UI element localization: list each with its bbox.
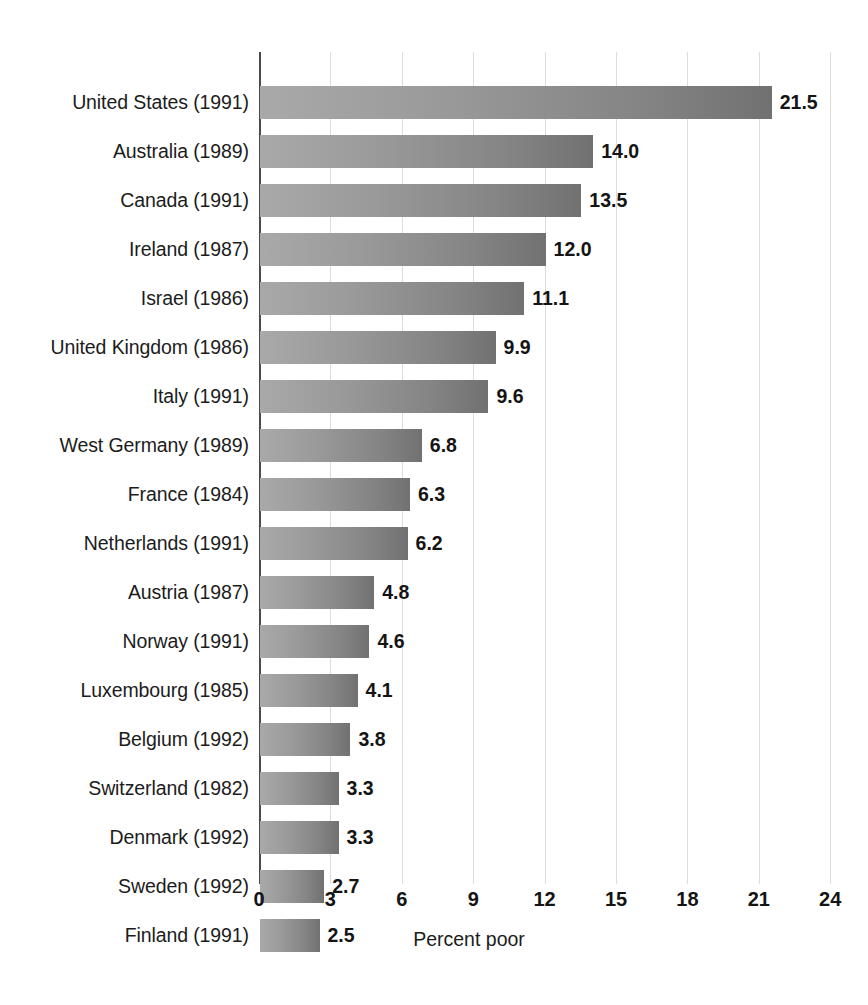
- bar: [260, 527, 408, 560]
- x-tick-label: 21: [729, 888, 789, 911]
- value-label: 6.8: [430, 429, 457, 462]
- value-label: 9.9: [504, 331, 531, 364]
- value-label: 13.5: [589, 184, 627, 217]
- value-label: 6.3: [418, 478, 445, 511]
- bar-row: Israel (1986)11.1: [0, 282, 868, 315]
- x-axis-title: Percent poor: [0, 928, 868, 951]
- bar-row: Italy (1991)9.6: [0, 380, 868, 413]
- value-label: 3.3: [347, 772, 374, 805]
- value-label: 4.8: [382, 576, 409, 609]
- category-label: Denmark (1992): [110, 821, 250, 854]
- bar: [260, 135, 593, 168]
- bar: [260, 576, 374, 609]
- bar-row: Norway (1991)4.6: [0, 625, 868, 658]
- bar-row: Luxembourg (1985)4.1: [0, 674, 868, 707]
- category-label: Norway (1991): [122, 625, 249, 658]
- bar-row: Canada (1991)13.5: [0, 184, 868, 217]
- bar-row: United States (1991)21.5: [0, 86, 868, 119]
- value-label: 4.6: [377, 625, 404, 658]
- value-label: 11.1: [532, 282, 569, 315]
- bar: [260, 478, 410, 511]
- bar-row: Belgium (1992)3.8: [0, 723, 868, 756]
- category-label: Italy (1991): [153, 380, 249, 413]
- bar-rows: United States (1991)21.5Australia (1989)…: [0, 0, 868, 1005]
- category-label: Switzerland (1982): [88, 772, 249, 805]
- bar: [260, 380, 488, 413]
- bar: [260, 821, 339, 854]
- category-label: Australia (1989): [113, 135, 249, 168]
- category-label: France (1984): [128, 478, 249, 511]
- bar: [260, 723, 350, 756]
- bar-row: Ireland (1987)12.0: [0, 233, 868, 266]
- value-label: 4.1: [366, 674, 393, 707]
- x-tick-label: 24: [800, 888, 860, 911]
- category-label: Canada (1991): [120, 184, 249, 217]
- bar: [260, 625, 369, 658]
- x-tick-label: 18: [657, 888, 717, 911]
- category-label: Ireland (1987): [129, 233, 249, 266]
- category-label: United Kingdom (1986): [51, 331, 249, 364]
- x-tick-label: 6: [372, 888, 432, 911]
- value-label: 3.8: [358, 723, 385, 756]
- bar: [260, 674, 358, 707]
- x-tick-label: 9: [443, 888, 503, 911]
- bar-row: Netherlands (1991)6.2: [0, 527, 868, 560]
- bar-row: West Germany (1989)6.8: [0, 429, 868, 462]
- bar-row: Denmark (1992)3.3: [0, 821, 868, 854]
- value-label: 6.2: [416, 527, 443, 560]
- value-label: 21.5: [780, 86, 818, 119]
- x-tick-label: 12: [515, 888, 575, 911]
- value-label: 14.0: [601, 135, 639, 168]
- bar: [260, 772, 339, 805]
- value-label: 3.3: [347, 821, 374, 854]
- bar-row: Switzerland (1982)3.3: [0, 772, 868, 805]
- bar: [260, 86, 772, 119]
- category-label: Israel (1986): [141, 282, 249, 315]
- category-label: West Germany (1989): [59, 429, 249, 462]
- bar-row: Austria (1987)4.8: [0, 576, 868, 609]
- bar: [260, 233, 546, 266]
- x-tick-label: 3: [300, 888, 360, 911]
- bar: [260, 429, 422, 462]
- category-label: Belgium (1992): [118, 723, 249, 756]
- category-label: Netherlands (1991): [84, 527, 249, 560]
- bar: [260, 331, 496, 364]
- value-label: 12.0: [554, 233, 592, 266]
- category-label: United States (1991): [72, 86, 249, 119]
- x-tick-label: 0: [229, 888, 289, 911]
- bar: [260, 282, 524, 315]
- bar-row: France (1984)6.3: [0, 478, 868, 511]
- bar-row: United Kingdom (1986)9.9: [0, 331, 868, 364]
- bar-chart: United States (1991)21.5Australia (1989)…: [0, 0, 868, 1005]
- category-label: Austria (1987): [128, 576, 249, 609]
- x-tick-label: 15: [586, 888, 646, 911]
- bar: [260, 184, 581, 217]
- value-label: 9.6: [496, 380, 523, 413]
- category-label: Luxembourg (1985): [81, 674, 250, 707]
- bar-row: Australia (1989)14.0: [0, 135, 868, 168]
